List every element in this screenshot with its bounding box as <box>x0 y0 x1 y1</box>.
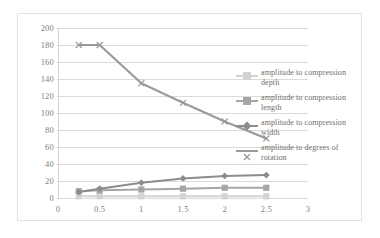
legend-entry: amplitude to compression length <box>236 93 364 112</box>
series-2 <box>75 172 269 196</box>
y-tick-label: 140 <box>20 75 54 84</box>
y-tick-label: 160 <box>20 58 54 67</box>
legend-label: amplitude to compression width <box>261 118 364 137</box>
chart-container: 020406080100120140160180200 00.511.522.5… <box>0 0 380 238</box>
y-tick-label: 40 <box>20 160 54 169</box>
legend-label: amplitude to compression depth <box>261 68 364 87</box>
y-tick-label: 180 <box>20 41 54 50</box>
x-tick-label: 2 <box>222 204 226 214</box>
x-tick-label: 3 <box>306 204 310 214</box>
y-tick-label: 80 <box>20 126 54 135</box>
y-tick-label: 100 <box>20 109 54 118</box>
legend-swatch-icon <box>236 70 258 81</box>
x-axis-labels: 00.511.522.53 <box>58 204 308 218</box>
legend-label: amplitude to compression length <box>261 93 364 112</box>
y-tick-label: 0 <box>20 194 54 203</box>
x-tick-label: 2.5 <box>261 204 272 214</box>
y-tick-label: 200 <box>20 24 54 33</box>
legend-entry: amplitude to degrees of rotation <box>236 143 364 162</box>
x-tick-label: 1.5 <box>177 204 188 214</box>
y-axis-labels: 020406080100120140160180200 <box>18 0 54 238</box>
y-tick-label: 20 <box>20 177 54 186</box>
legend-swatch-icon <box>236 145 258 156</box>
x-tick-label: 0.5 <box>94 204 105 214</box>
legend-swatch-icon <box>236 95 258 106</box>
x-tick-label: 1 <box>139 204 143 214</box>
legend-label: amplitude to degrees of rotation <box>261 143 364 162</box>
legend-entry: amplitude to compression depth <box>236 68 364 87</box>
x-tick-label: 0 <box>56 204 60 214</box>
y-tick-label: 60 <box>20 143 54 152</box>
series-1 <box>76 185 270 195</box>
legend-entry: amplitude to compression width <box>236 118 364 137</box>
y-tick-label: 120 <box>20 92 54 101</box>
chart-legend: amplitude to compression depthamplitude … <box>236 68 364 168</box>
legend-swatch-icon <box>236 120 258 131</box>
